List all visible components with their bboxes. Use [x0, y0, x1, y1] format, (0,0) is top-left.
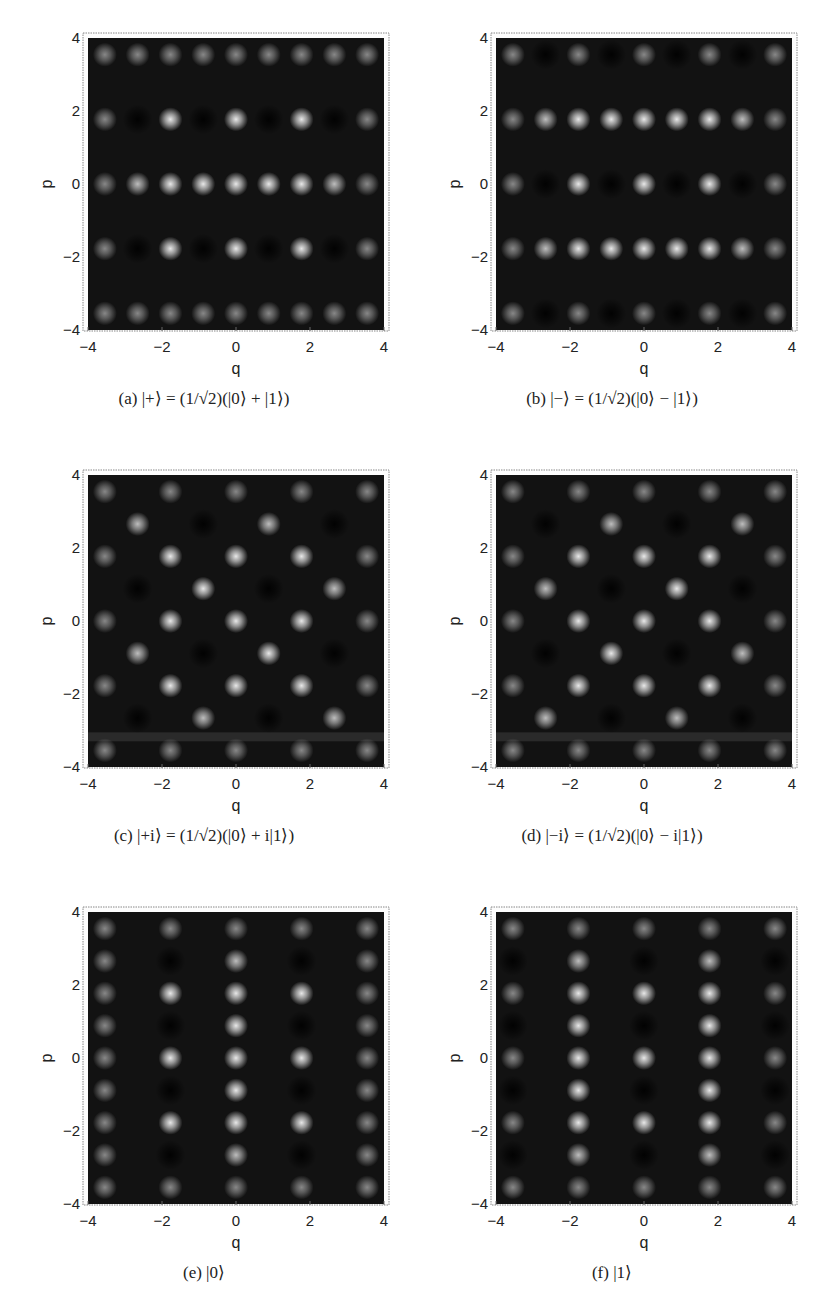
- negative-peak: [254, 234, 284, 264]
- positive-peak: [698, 237, 722, 261]
- positive-peak: [501, 172, 525, 196]
- positive-peak: [158, 301, 182, 325]
- x-tick-label: 0: [232, 775, 240, 792]
- negative-peak: [498, 1140, 528, 1170]
- positive-peak: [632, 172, 656, 196]
- y-tick-label: 0: [72, 612, 80, 629]
- positive-peak: [355, 1014, 379, 1038]
- positive-peak: [501, 544, 525, 568]
- positive-peak: [763, 674, 787, 698]
- positive-peak: [224, 480, 248, 504]
- y-tick-label: −2: [471, 1122, 488, 1139]
- negative-peak: [662, 169, 692, 199]
- positive-peak: [224, 1046, 248, 1070]
- positive-peak: [158, 917, 182, 941]
- x-tick-label: 4: [788, 1212, 796, 1229]
- positive-peak: [698, 480, 722, 504]
- x-tick-label: 2: [306, 338, 314, 355]
- positive-peak: [93, 674, 117, 698]
- x-tick-label: −4: [79, 775, 96, 792]
- positive-peak: [501, 107, 525, 131]
- x-tick-label: −4: [487, 775, 504, 792]
- positive-peak: [763, 1175, 787, 1199]
- positive-peak: [158, 43, 182, 67]
- positive-peak: [355, 172, 379, 196]
- y-tick-label: 0: [480, 175, 488, 192]
- positive-peak: [257, 43, 281, 67]
- positive-peak: [93, 1111, 117, 1135]
- y-tick-label: −4: [471, 758, 488, 775]
- positive-peak: [355, 981, 379, 1005]
- positive-peak: [730, 107, 754, 131]
- positive-peak: [191, 172, 215, 196]
- negative-peak: [531, 298, 561, 328]
- y-tick-label: 4: [480, 29, 488, 46]
- negative-peak: [498, 1011, 528, 1041]
- y-tick-label: 4: [480, 466, 488, 483]
- positive-peak: [191, 706, 215, 730]
- negative-peak: [287, 1075, 317, 1105]
- negative-peak: [287, 1140, 317, 1170]
- positive-peak: [224, 237, 248, 261]
- positive-peak: [665, 107, 689, 131]
- negative-peak: [254, 104, 284, 134]
- positive-peak: [93, 1078, 117, 1102]
- negative-peak: [662, 298, 692, 328]
- x-axis-label: q: [640, 797, 649, 814]
- y-tick-label: 4: [480, 903, 488, 920]
- negative-peak: [596, 40, 626, 70]
- wigner-plot-d: −44−22002−24−4qp: [408, 437, 816, 837]
- positive-peak: [632, 237, 656, 261]
- negative-peak: [727, 40, 757, 70]
- positive-peak: [665, 577, 689, 601]
- y-axis-label: p: [446, 179, 463, 188]
- positive-peak: [632, 917, 656, 941]
- wigner-plot-b: −44−22002−24−4qp: [408, 0, 816, 400]
- positive-peak: [501, 738, 525, 762]
- positive-peak: [93, 544, 117, 568]
- negative-peak: [319, 234, 349, 264]
- x-tick-label: 0: [232, 338, 240, 355]
- positive-peak: [763, 609, 787, 633]
- positive-peak: [126, 43, 150, 67]
- positive-peak: [763, 237, 787, 261]
- positive-peak: [257, 301, 281, 325]
- positive-peak: [290, 172, 314, 196]
- positive-peak: [355, 107, 379, 131]
- negative-peak: [498, 1075, 528, 1105]
- positive-peak: [224, 544, 248, 568]
- positive-peak: [93, 981, 117, 1005]
- y-tick-label: 0: [480, 612, 488, 629]
- negative-peak: [155, 1075, 185, 1105]
- x-tick-label: −4: [79, 1212, 96, 1229]
- positive-peak: [698, 738, 722, 762]
- positive-peak: [698, 1046, 722, 1070]
- x-tick-label: −2: [153, 775, 170, 792]
- positive-peak: [501, 301, 525, 325]
- figure-panel-a: −44−22002−24−4qp(a) |+⟩ = (1/√2)(|0⟩ + |…: [0, 0, 408, 437]
- positive-peak: [698, 1111, 722, 1135]
- positive-peak: [290, 1175, 314, 1199]
- positive-peak: [224, 1078, 248, 1102]
- positive-peak: [763, 544, 787, 568]
- negative-peak: [123, 104, 153, 134]
- negative-peak: [123, 574, 153, 604]
- negative-peak: [155, 1140, 185, 1170]
- negative-peak: [629, 1075, 659, 1105]
- y-axis-label: p: [38, 179, 55, 188]
- negative-peak: [629, 1140, 659, 1170]
- y-tick-label: −2: [471, 685, 488, 702]
- positive-peak: [224, 107, 248, 131]
- x-tick-label: 0: [640, 338, 648, 355]
- x-tick-label: −4: [79, 338, 96, 355]
- positive-peak: [93, 43, 117, 67]
- negative-peak: [662, 638, 692, 668]
- negative-peak: [188, 234, 218, 264]
- panel-caption-f: (f) |1⟩: [408, 1262, 816, 1283]
- positive-peak: [632, 674, 656, 698]
- x-tick-label: 4: [380, 338, 388, 355]
- x-tick-label: −2: [561, 775, 578, 792]
- positive-peak: [566, 1078, 590, 1102]
- positive-peak: [501, 917, 525, 941]
- positive-peak: [290, 609, 314, 633]
